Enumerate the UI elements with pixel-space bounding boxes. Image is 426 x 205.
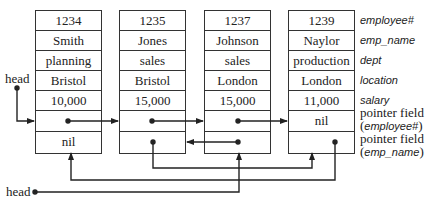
pointer-arrows [0,0,426,205]
head-employee-pointer-arrow [15,86,34,121]
emp-name-link-4-1-arrow [71,140,337,180]
emp-name-link-3-2-arrow [187,140,240,144]
employee-link-3-4-arrow [236,119,287,123]
employee-link-1-2-arrow [66,119,118,123]
employee-link-2-3-arrow [150,119,203,123]
head-emp-name-pointer-arrow [33,153,239,194]
emp-name-link-2-4-arrow [151,140,312,168]
